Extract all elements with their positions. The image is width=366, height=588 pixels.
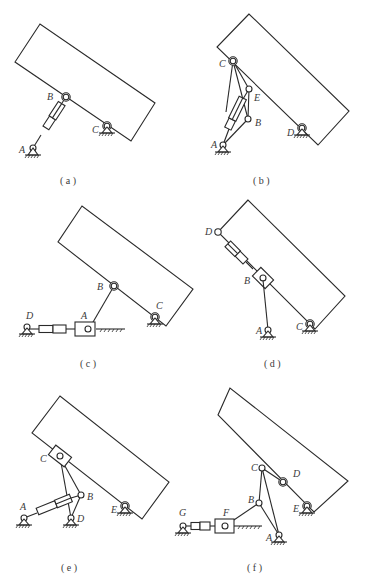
link-c-piston — [226, 61, 233, 112]
joint-f — [222, 523, 228, 529]
panel-d: D B A C ( d ) — [204, 200, 345, 370]
ground-support-g — [175, 523, 191, 536]
label-c: C — [251, 462, 258, 473]
label-c: C — [156, 300, 163, 311]
joint-c — [230, 58, 236, 64]
mechanism-figure: B C A ( a ) — [0, 0, 366, 588]
joint-b — [78, 492, 84, 498]
joint-e — [246, 86, 252, 92]
label-b: B — [87, 491, 93, 502]
ground-support-a — [260, 327, 276, 340]
caption-b: ( b ) — [253, 175, 270, 187]
body-rectangle — [218, 200, 345, 329]
label-b: B — [248, 494, 254, 505]
link-b-a — [259, 503, 279, 535]
label-b: B — [255, 117, 261, 128]
label-b: B — [97, 281, 103, 292]
label-a: A — [255, 325, 263, 336]
hydraulic-cylinder — [225, 241, 248, 264]
ground-support-d — [19, 324, 35, 337]
cylinder-rod-body — [39, 326, 53, 333]
ground-support-a — [16, 515, 32, 528]
panel-e: C B D A E ( e ) — [16, 396, 169, 574]
joint-b — [245, 116, 251, 122]
cylinder-barrel — [53, 325, 66, 333]
cylinder-barrel — [200, 522, 210, 530]
label-a: A — [80, 310, 88, 321]
ground-support-c — [147, 313, 163, 327]
link-e-b — [248, 89, 249, 119]
panel-c: B C A D ( c ) — [19, 206, 193, 370]
joint-c — [259, 465, 265, 471]
label-a: A — [210, 139, 218, 150]
cylinder-rod-body — [191, 523, 200, 530]
panel-a: B C A ( a ) — [15, 24, 155, 187]
joint-b — [63, 94, 69, 100]
joint-a — [85, 326, 91, 332]
label-d: D — [25, 310, 34, 321]
ground-support-c — [302, 320, 318, 334]
body-rectangle — [15, 24, 155, 141]
caption-a: ( a ) — [60, 175, 76, 187]
ground-support-a — [25, 145, 41, 158]
hydraulic-cylinder — [43, 101, 66, 130]
label-c: C — [296, 321, 303, 332]
label-d: D — [286, 127, 295, 138]
label-e: E — [253, 92, 260, 103]
body-rectangle — [58, 206, 193, 326]
panel-b: C E B A D ( b ) — [210, 14, 349, 187]
label-d: D — [76, 513, 85, 524]
label-a: A — [18, 144, 26, 155]
joint-d — [280, 479, 286, 485]
joint-b — [111, 283, 117, 289]
label-e: E — [292, 503, 299, 514]
label-c: C — [40, 453, 47, 464]
label-g: G — [179, 507, 186, 518]
label-e: E — [110, 504, 117, 515]
label-d: D — [292, 468, 301, 479]
label-c: C — [219, 58, 226, 69]
label-b: B — [47, 91, 53, 102]
ground-support-d — [294, 124, 310, 138]
link-c-b — [259, 468, 262, 503]
body-rectangle — [218, 388, 348, 512]
joint-d — [215, 229, 221, 235]
panel-f: C D E B A F G ( f ) — [175, 388, 348, 574]
ground-support-e — [117, 502, 133, 516]
caption-f: ( f ) — [247, 562, 262, 574]
label-c: C — [92, 124, 99, 135]
ground-support-a — [215, 142, 231, 155]
ground-support-e — [299, 502, 315, 516]
ground-support-a — [271, 532, 287, 545]
joint-b — [256, 500, 262, 506]
label-d: D — [204, 226, 213, 237]
label-b: B — [244, 275, 250, 286]
caption-e: ( e ) — [61, 562, 77, 574]
joint-c — [57, 453, 63, 459]
hydraulic-cylinder — [36, 494, 72, 515]
body-rectangle — [217, 14, 349, 145]
caption-d: ( d ) — [264, 358, 281, 370]
label-a: A — [19, 501, 27, 512]
label-a: A — [265, 532, 273, 543]
label-f: F — [222, 507, 230, 518]
caption-c: ( c ) — [80, 358, 96, 370]
